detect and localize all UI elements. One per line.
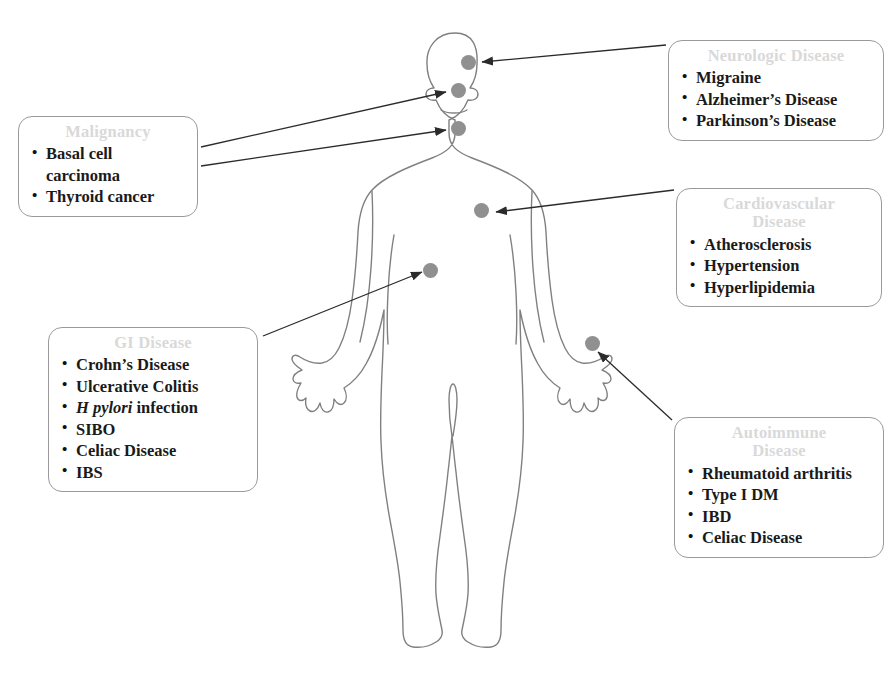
list-item: Type I DM <box>685 484 873 505</box>
arrow-malignancy-to-face <box>201 92 446 147</box>
callout-autoimmune-disease[interactable]: Autoimmune Disease Rheumatoid arthritis … <box>674 417 884 558</box>
abdomen-marker <box>423 263 438 278</box>
list-item: SIBO <box>59 419 247 440</box>
list-item: Thyroid cancer <box>29 186 187 207</box>
callout-cardiovascular-disease[interactable]: Cardiovascular Disease Atherosclerosis H… <box>676 188 882 307</box>
arrow-gi-to-abdomen <box>263 272 422 336</box>
neck-thyroid-marker <box>451 121 466 136</box>
callout-title-autoimmune-disease: Autoimmune Disease <box>685 424 873 461</box>
list-item: Ulcerative Colitis <box>59 376 247 397</box>
callout-title-gi-disease: GI Disease <box>59 334 247 352</box>
arrow-neurologic-to-brain <box>482 45 666 62</box>
list-item: H pylori infection <box>59 397 247 418</box>
callout-list-gi-disease: Crohn’s Disease Ulcerative Colitis H pyl… <box>59 354 247 483</box>
callout-neurologic-disease[interactable]: Neurologic Disease Migraine Alzheimer’s … <box>668 40 884 141</box>
list-item: Basal cell carcinoma <box>29 143 187 186</box>
list-item: Hyperlipidemia <box>687 277 871 298</box>
callout-title-malignancy: Malignancy <box>29 123 187 141</box>
list-item: Parkinson’s Disease <box>679 110 873 131</box>
connector-arrows <box>201 45 674 420</box>
list-item: IBD <box>685 506 873 527</box>
heart-marker <box>474 203 489 218</box>
list-item: Alzheimer’s Disease <box>679 89 873 110</box>
diagram-canvas: Malignancy Basal cell carcinoma Thyroid … <box>0 0 896 677</box>
callout-list-autoimmune-disease: Rheumatoid arthritis Type I DM IBD Celia… <box>685 463 873 549</box>
callout-title-neurologic-disease: Neurologic Disease <box>679 47 873 65</box>
list-item: Atherosclerosis <box>687 234 871 255</box>
callout-list-cardiovascular-disease: Atherosclerosis Hypertension Hyperlipide… <box>687 234 871 298</box>
callout-malignancy[interactable]: Malignancy Basal cell carcinoma Thyroid … <box>18 116 198 217</box>
list-item: Crohn’s Disease <box>59 354 247 375</box>
callout-list-neurologic-disease: Migraine Alzheimer’s Disease Parkinson’s… <box>679 67 873 131</box>
callout-title-cardiovascular-disease: Cardiovascular Disease <box>687 195 871 232</box>
face-marker <box>451 83 466 98</box>
callout-gi-disease[interactable]: GI Disease Crohn’s Disease Ulcerative Co… <box>48 327 258 492</box>
list-item: Celiac Disease <box>59 440 247 461</box>
arrow-cardiovascular-to-heart <box>496 190 674 212</box>
list-item: Celiac Disease <box>685 527 873 548</box>
list-item: Migraine <box>679 67 873 88</box>
callout-list-malignancy: Basal cell carcinoma Thyroid cancer <box>29 143 187 207</box>
list-item: Hypertension <box>687 255 871 276</box>
arrow-malignancy-to-neck <box>201 130 446 166</box>
arrow-autoimmune-to-wrist <box>598 352 672 420</box>
list-item: IBS <box>59 462 247 483</box>
wrist-hand-marker <box>585 336 600 351</box>
brain-marker <box>461 55 476 70</box>
species-name: H pylori <box>76 398 132 417</box>
list-item: Rheumatoid arthritis <box>685 463 873 484</box>
